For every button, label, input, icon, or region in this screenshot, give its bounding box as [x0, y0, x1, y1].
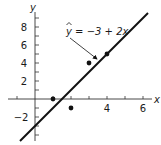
data-point — [87, 61, 92, 66]
equation-rest: = −3 + 2x — [72, 26, 129, 37]
data-point — [105, 52, 110, 57]
y-tick-label-4: 4 — [21, 58, 27, 69]
regression-chart: 8 6 4 2 −2 4 6 y x y = −3 + 2x — [0, 0, 161, 145]
y-tick-label-8: 8 — [21, 22, 27, 33]
x-tick-label-6: 6 — [140, 103, 146, 114]
y-tick-label-neg2: −2 — [14, 112, 29, 123]
hat-accent — [67, 23, 72, 26]
annotation-arrow — [70, 38, 97, 59]
data-point — [69, 106, 74, 111]
x-axis-label: x — [153, 94, 160, 105]
y-tick-label-2: 2 — [21, 76, 27, 87]
svg-text:y = −3 + 2x: y = −3 + 2x — [65, 26, 128, 37]
y-axis-label: y — [29, 2, 37, 13]
x-tick-label-4: 4 — [104, 103, 110, 114]
y-tick-label-6: 6 — [21, 40, 27, 51]
data-point — [51, 97, 56, 102]
y-ticks — [35, 18, 39, 135]
